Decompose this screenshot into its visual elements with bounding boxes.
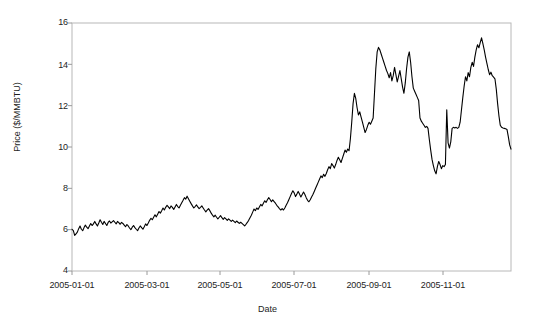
x-tick-label-2005-11-01: 2005-11-01 (403, 280, 483, 290)
chart-figure: 16 14 12 10 8 6 4 2005-01-01 2005-03-01 … (0, 0, 535, 329)
y-tick-label-16: 16 (46, 17, 68, 27)
x-tick-label-2005-03-01: 2005-03-01 (107, 280, 187, 290)
y-tick-label-6: 6 (46, 224, 68, 234)
y-axis-ticks (68, 23, 72, 271)
y-axis-title: Price ($/MMBTU) (12, 62, 22, 172)
x-tick-label-2005-01-01: 2005-01-01 (32, 280, 112, 290)
y-tick-label-10: 10 (46, 142, 68, 152)
x-axis-title: Date (0, 304, 535, 314)
x-tick-label-2005-07-01: 2005-07-01 (254, 280, 334, 290)
y-tick-label-4: 4 (46, 265, 68, 275)
plot-area-frame (72, 23, 511, 271)
x-tick-label-2005-09-01: 2005-09-01 (329, 280, 409, 290)
x-tick-label-2005-05-01: 2005-05-01 (180, 280, 260, 290)
y-tick-label-12: 12 (46, 101, 68, 111)
x-axis-ticks (72, 271, 443, 275)
y-tick-label-14: 14 (46, 60, 68, 70)
y-tick-label-8: 8 (46, 183, 68, 193)
